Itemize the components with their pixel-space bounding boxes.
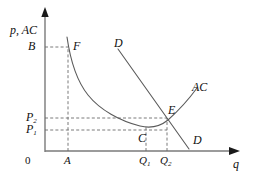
y-tick-P1-subscript: 1	[33, 129, 37, 137]
x-tick-Q2: Q2	[160, 155, 171, 168]
curve-label-demand-bottom: D	[193, 134, 202, 146]
x-axis-label: q	[233, 158, 239, 170]
x-tick-A: A	[64, 155, 71, 166]
x-tick-Q2-text: Q	[160, 154, 168, 166]
demand-curve	[118, 49, 189, 149]
y-tick-B-text: B	[28, 39, 35, 53]
origin-label: 0	[25, 155, 31, 166]
average-cost-curve	[67, 37, 197, 127]
x-tick-Q1: Q1	[139, 155, 150, 168]
x-tick-A-text: A	[64, 154, 71, 166]
y-axis-arrowhead	[41, 7, 48, 17]
x-tick-Q1-text: Q	[139, 154, 147, 166]
curve-label-average-cost: AC	[192, 81, 207, 93]
x-axis-arrowhead	[229, 147, 240, 155]
point-label-C: C	[138, 132, 146, 144]
point-label-E: E	[168, 104, 175, 116]
economics-diagram: p, AC q 0 B P2 P1 A Q1 Q2 F C E D D AC	[0, 0, 255, 181]
y-tick-P1: P1	[26, 123, 37, 137]
curve-label-demand-top: D	[114, 37, 123, 49]
point-label-F: F	[73, 40, 80, 52]
y-tick-B: B	[28, 40, 35, 52]
x-tick-Q2-subscript: 2	[168, 160, 172, 168]
x-tick-Q1-subscript: 1	[147, 160, 151, 168]
y-axis-label: p, AC	[10, 24, 37, 36]
plot-canvas	[0, 0, 255, 181]
